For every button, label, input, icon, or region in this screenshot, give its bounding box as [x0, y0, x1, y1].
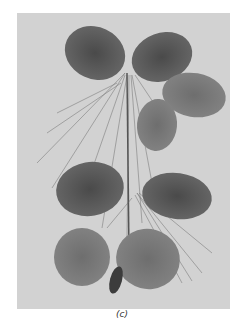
figure-caption: (c) [0, 309, 244, 319]
plant-photograph [17, 13, 230, 309]
leaf [56, 16, 134, 89]
